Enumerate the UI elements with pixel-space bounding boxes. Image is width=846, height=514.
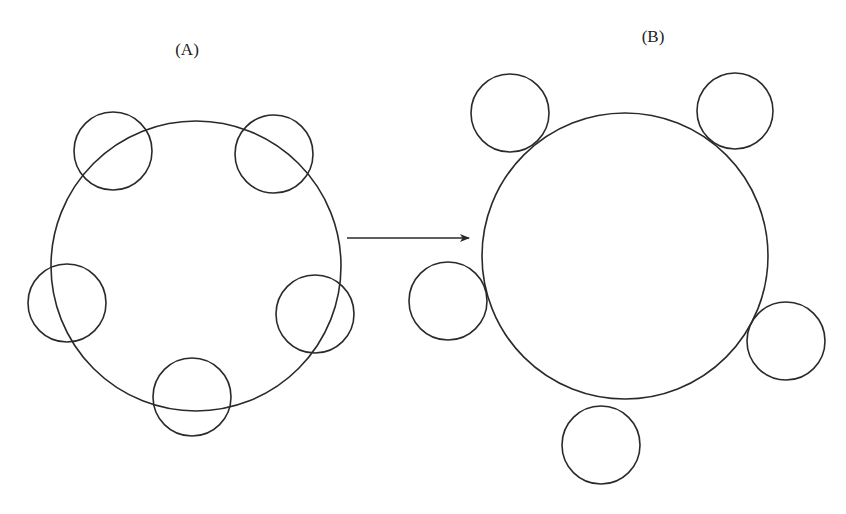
small-circle-bottom <box>562 406 640 484</box>
small-circle-right <box>747 302 825 380</box>
small-circle-bottom <box>153 358 231 436</box>
small-circle-top-right <box>235 115 313 193</box>
small-circle-top-left <box>74 112 152 190</box>
small-circle-top-left <box>471 74 549 152</box>
small-circle-top-right <box>697 73 773 149</box>
small-circle-left <box>28 264 106 342</box>
large-circle <box>482 113 768 399</box>
large-circle <box>51 121 341 411</box>
panel-a-diagram <box>28 112 354 436</box>
small-circle-right <box>276 275 354 353</box>
small-circle-left <box>409 262 487 340</box>
diagram-canvas <box>0 0 846 514</box>
panel-b-diagram <box>409 73 825 484</box>
